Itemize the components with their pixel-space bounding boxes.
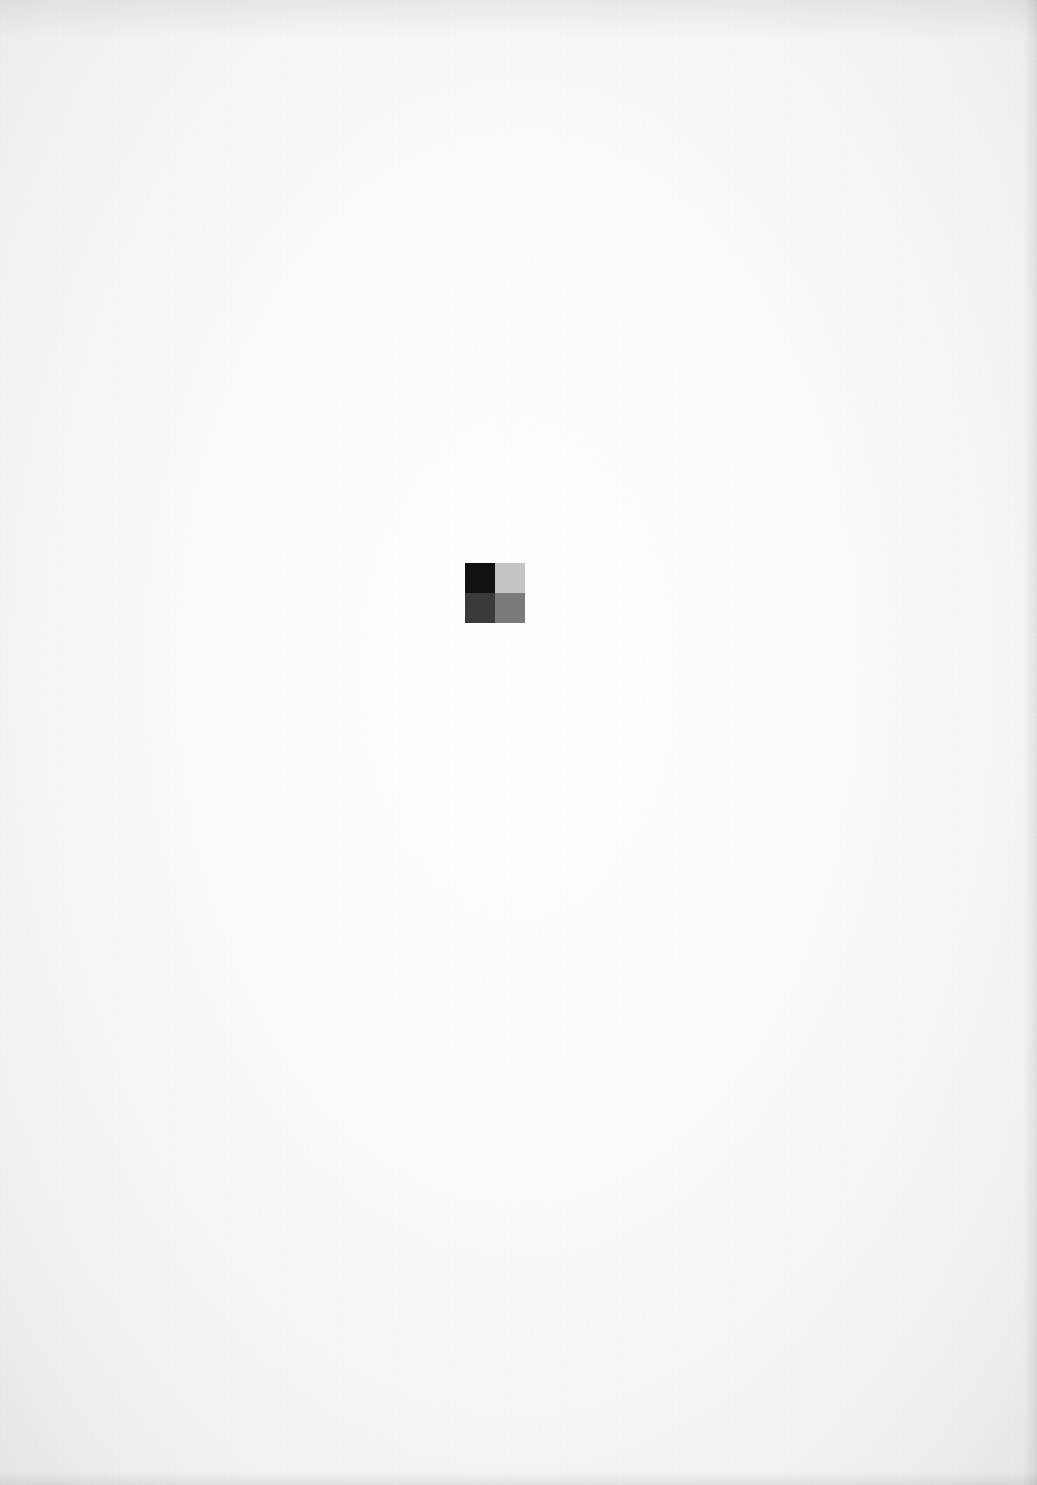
scan-edge-bottom <box>0 1471 1037 1485</box>
scan-edge-right <box>1023 0 1037 1485</box>
swatch-cell-top-right <box>495 563 525 593</box>
paper-texture <box>0 0 1037 1485</box>
grayscale-swatch <box>465 563 525 623</box>
swatch-cell-bottom-left <box>465 593 495 623</box>
swatch-cell-bottom-right <box>495 593 525 623</box>
document-page <box>0 0 1037 1485</box>
scan-edge-top <box>0 0 1037 40</box>
swatch-cell-top-left <box>465 563 495 593</box>
